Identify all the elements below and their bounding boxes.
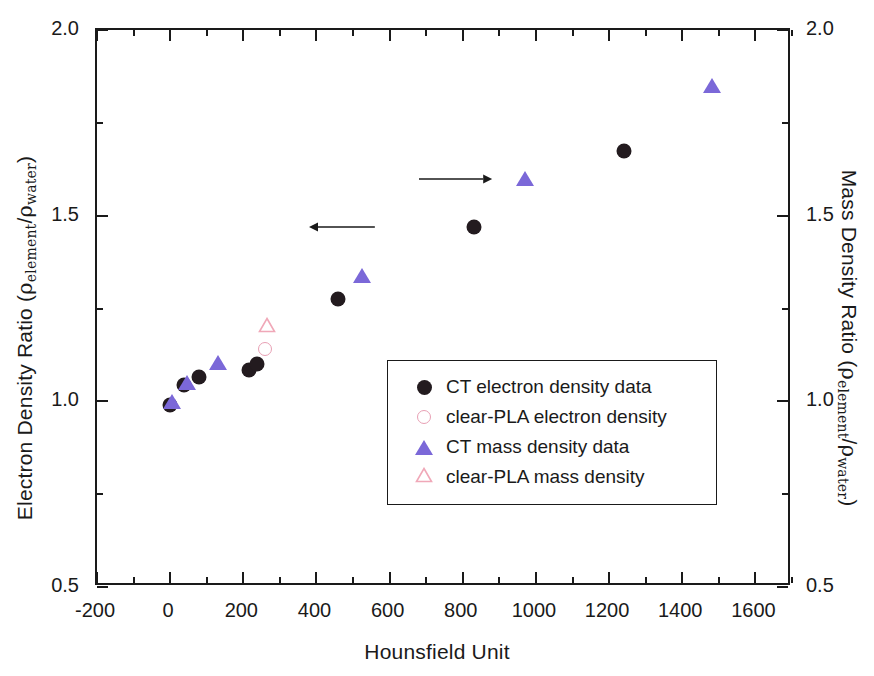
x-axis-tick-top: [169, 30, 171, 41]
data-point-filled-circle: [250, 357, 265, 372]
rho-subscript-element: element: [835, 380, 851, 439]
y-axis-tick-label-left: 1.5: [51, 202, 79, 225]
legend-label: CT electron density data: [446, 376, 652, 398]
y-axis-tick-right: [782, 493, 788, 495]
y-axis-tick-left: [97, 122, 103, 124]
chart-figure: Electron Density Ratio (ρelement/ρwater)…: [0, 0, 874, 676]
slash-symbol: /: [13, 218, 36, 224]
y-axis-tick-right: [777, 400, 788, 402]
y-axis-tick-right: [777, 586, 788, 588]
data-point-filled-circle: [466, 219, 481, 234]
x-axis-tick: [572, 577, 574, 583]
legend-label: clear-PLA electron density: [446, 406, 667, 428]
legend-item: CT electron density data: [402, 372, 702, 402]
y-axis-tick-left: [97, 215, 108, 217]
annotation-arrow-right: [419, 171, 492, 187]
x-axis-tick: [425, 577, 427, 583]
x-axis-tick-top: [352, 30, 354, 36]
x-axis-tick: [718, 577, 720, 583]
y-axis-tick-right: [777, 29, 788, 31]
data-point-filled-triangle: [163, 394, 181, 409]
y-axis-tick-label-right: 1.0: [806, 388, 834, 411]
y-axis-tick-label-right: 2.0: [806, 17, 834, 40]
x-axis-tick: [754, 572, 756, 583]
x-axis-tick-top: [718, 30, 720, 36]
x-axis-tick-top: [462, 30, 464, 41]
x-axis-tick: [608, 572, 610, 583]
legend-marker: [402, 467, 446, 487]
rho-subscript-element: element: [23, 224, 39, 283]
y-axis-left-title-prefix: Electron Density Ratio (: [13, 295, 36, 520]
legend-item: clear-PLA mass density: [402, 462, 702, 492]
data-point-filled-circle: [616, 143, 631, 158]
x-axis-tick-top: [425, 30, 427, 36]
legend-marker: [402, 380, 446, 395]
y-axis-tick-left: [97, 493, 103, 495]
x-axis-tick-top: [681, 30, 683, 41]
x-axis-tick-label: 1600: [731, 599, 776, 622]
paren-close: ): [838, 499, 861, 506]
y-axis-tick-right: [782, 122, 788, 124]
x-axis-tick-label: 800: [444, 599, 477, 622]
y-axis-left-title: Electron Density Ratio (ρelement/ρwater): [13, 156, 40, 520]
x-axis-tick-top: [206, 30, 208, 36]
data-point-filled-triangle: [353, 268, 371, 283]
x-axis-tick: [242, 572, 244, 583]
data-point-filled-circle: [331, 292, 346, 307]
x-axis-tick: [791, 577, 793, 583]
y-axis-tick-left: [97, 400, 108, 402]
x-axis-tick-top: [498, 30, 500, 36]
x-axis-tick: [169, 572, 171, 583]
data-point-filled-triangle: [178, 375, 196, 390]
y-axis-tick-label-right: 1.5: [806, 202, 834, 225]
annotation-arrow-left: [309, 219, 375, 235]
x-axis-tick: [681, 572, 683, 583]
y-axis-tick-left: [97, 308, 103, 310]
paren-close: ): [13, 156, 36, 163]
x-axis-tick-label: 0: [163, 599, 174, 622]
y-axis-tick-label-left: 1.0: [51, 388, 79, 411]
legend-label: clear-PLA mass density: [446, 466, 645, 488]
x-axis-tick-top: [242, 30, 244, 41]
x-axis-tick: [535, 572, 537, 583]
legend-label: CT mass density data: [446, 436, 629, 458]
x-axis-tick-top: [279, 30, 281, 36]
x-axis-tick-label: 1400: [658, 599, 703, 622]
y-axis-right-title: Mass Density Ratio (ρelement/ρwater): [835, 170, 862, 507]
x-axis-tick: [389, 572, 391, 583]
x-axis-tick: [315, 572, 317, 583]
rho-subscript-water: water: [835, 457, 851, 499]
x-axis-tick: [645, 577, 647, 583]
x-axis-title: Hounsfield Unit: [364, 640, 509, 664]
y-axis-tick-left: [97, 586, 108, 588]
x-axis-tick-top: [535, 30, 537, 41]
rho-symbol: ρ: [837, 445, 861, 458]
data-point-filled-triangle: [703, 78, 721, 93]
rho-subscript-water: water: [23, 163, 39, 205]
x-axis-tick-top: [133, 30, 135, 36]
rho-symbol: ρ: [13, 205, 37, 218]
data-point-filled-triangle: [516, 171, 534, 186]
y-axis-tick-label-left: 0.5: [51, 574, 79, 597]
x-axis-tick-label: -200: [75, 599, 115, 622]
x-axis-tick-label: 1000: [512, 599, 557, 622]
data-point-filled-triangle: [209, 355, 227, 370]
chart-legend: CT electron density dataclear-PLA electr…: [387, 360, 717, 505]
data-point-open-triangle: [415, 467, 433, 487]
rho-symbol: ρ: [13, 282, 37, 295]
x-axis-tick-top: [645, 30, 647, 36]
x-axis-tick-top: [608, 30, 610, 41]
x-axis-tick: [133, 577, 135, 583]
x-axis-tick-label: 200: [225, 599, 258, 622]
data-point-open-circle: [417, 410, 431, 424]
x-axis-tick-top: [315, 30, 317, 41]
x-axis-tick: [206, 577, 208, 583]
x-axis-tick: [498, 577, 500, 583]
y-axis-right-title-prefix: Mass Density Ratio (: [838, 170, 861, 368]
data-point-open-circle: [258, 342, 272, 356]
x-axis-tick: [96, 572, 98, 583]
x-axis-tick: [462, 572, 464, 583]
y-axis-tick-label-right: 0.5: [806, 574, 834, 597]
y-axis-tick-left: [97, 29, 108, 31]
x-axis-tick-label: 1200: [585, 599, 630, 622]
